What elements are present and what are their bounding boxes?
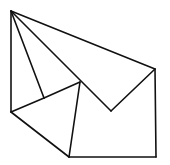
edge-DG [69, 82, 80, 157]
edge-FG [11, 112, 69, 157]
edge-ED [44, 82, 80, 98]
edge-FE [11, 98, 44, 112]
diagram-canvas [0, 0, 170, 165]
edge-BC [111, 69, 155, 111]
edge-CA [11, 11, 111, 111]
edge-AE [11, 11, 44, 98]
geometric-figure [0, 0, 170, 165]
edge-AB [11, 11, 155, 69]
edge-HB [155, 69, 156, 157]
